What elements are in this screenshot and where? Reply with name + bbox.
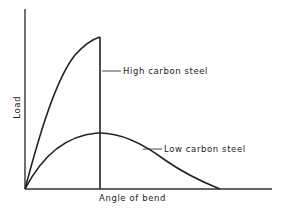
- high-carbon-curve: [25, 37, 100, 189]
- x-axis-label: Angle of bend: [99, 194, 166, 203]
- low-carbon-label: Low carbon steel: [164, 145, 246, 154]
- y-axis-label: Load: [13, 92, 22, 122]
- low-carbon-curve: [25, 133, 220, 189]
- high-carbon-label: High carbon steel: [123, 67, 208, 76]
- load-vs-angle-diagram: Load Angle of bend High carbon steel Low…: [0, 0, 289, 213]
- diagram-canvas: [0, 0, 289, 213]
